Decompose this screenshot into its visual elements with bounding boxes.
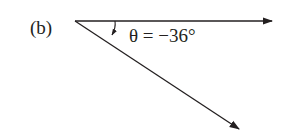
angle-label: θ = −36°	[129, 25, 196, 46]
panel-label: (b)	[30, 17, 52, 39]
angle-diagram: (b) θ = −36°	[0, 0, 282, 131]
angle-arc-arrow	[112, 21, 115, 35]
